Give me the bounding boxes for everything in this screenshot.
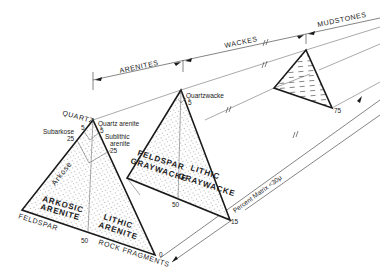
wacke-tick-50: 50 — [172, 201, 180, 208]
axis-tick-15: 15 — [231, 218, 239, 225]
sublithic-label-line2: arenite — [110, 140, 130, 147]
arenite-tick-25-left: 25 — [67, 135, 75, 142]
wacke-tick-5: 5 — [188, 99, 192, 106]
arenite-tick-5-left: 5 — [81, 124, 85, 131]
category-range-bar — [93, 18, 380, 90]
axis-tick-75: 75 — [334, 107, 342, 114]
arenite-tick-25-right: 25 — [110, 147, 118, 154]
mudstones-label: MUDSTONES — [317, 11, 367, 28]
arenite-tick-50: 50 — [81, 237, 89, 244]
quartz-label: QUARTZ — [61, 109, 94, 125]
arenites-label: ARENITES — [119, 59, 159, 74]
sandstone-classification-diagram: ARENITES WACKES MUDSTONES Percent Matrix… — [0, 0, 390, 274]
wackes-label: WACKES — [224, 35, 258, 49]
mudstone-triangle — [274, 50, 332, 108]
sublithic-label-line1: Sublithic — [105, 133, 130, 140]
quartzwacke-label: Quartzwacke — [186, 92, 224, 100]
percent-matrix-label: Percent Matrix <30μ — [231, 174, 283, 215]
subarkose-label: Subarkose — [43, 128, 74, 135]
arenite-tick-5-right: 5 — [100, 127, 104, 134]
quartz-arenite-label: Quartz arenite — [98, 120, 140, 128]
